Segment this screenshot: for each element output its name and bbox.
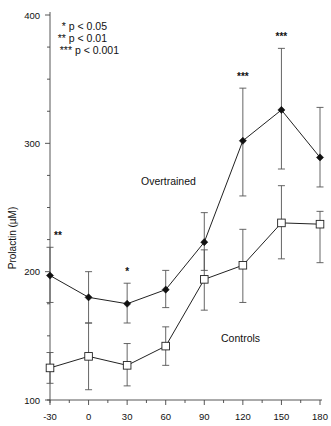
x-tick-label: -30 xyxy=(43,411,57,422)
controls-marker xyxy=(239,261,247,269)
x-tick-label: 150 xyxy=(273,411,289,422)
series-markers xyxy=(46,106,324,371)
controls-label: Controls xyxy=(221,332,260,344)
overtrained-marker xyxy=(46,272,53,279)
x-tick-label: 30 xyxy=(122,411,133,422)
legend-item-p001: ** p < 0.01 xyxy=(58,32,107,44)
significance-label: ** xyxy=(54,230,62,241)
overtrained-marker xyxy=(85,294,92,301)
x-tick-label: 120 xyxy=(235,411,251,422)
controls-marker xyxy=(123,362,131,370)
overtrained-line xyxy=(50,110,320,304)
y-axis-title: Prolactin (µM) xyxy=(7,207,18,269)
legend-item-p005: * p < 0.05 xyxy=(62,20,107,32)
y-tick-label: 200 xyxy=(24,266,40,277)
x-tick-label: 90 xyxy=(199,411,210,422)
overtrained-marker xyxy=(124,300,131,307)
controls-marker xyxy=(200,276,208,284)
x-tick-label: 60 xyxy=(160,411,171,422)
y-tick-label: 400 xyxy=(24,10,40,21)
x-tick-label: 0 xyxy=(86,411,91,422)
controls-marker xyxy=(278,219,286,227)
y-tick-label: 300 xyxy=(24,138,40,149)
controls-marker xyxy=(46,364,54,372)
series-lines xyxy=(50,110,320,368)
significance-markers: ********* xyxy=(54,31,287,277)
significance-label: *** xyxy=(276,31,288,42)
x-tick-label: 180 xyxy=(312,411,328,422)
y-tick-label: 100 xyxy=(24,395,40,406)
axes: 100200300400-300306090120150180 xyxy=(24,10,328,423)
legend: * p < 0.05 ** p < 0.01 *** p < 0.001 xyxy=(58,20,119,56)
legend-item-p0001: *** p < 0.001 xyxy=(60,44,119,56)
prolactin-line-chart: 100200300400-300306090120150180 ********… xyxy=(0,0,331,426)
controls-marker xyxy=(162,342,170,350)
controls-marker xyxy=(316,220,324,228)
overtrained-label: Overtrained xyxy=(141,175,196,187)
significance-label: * xyxy=(125,266,129,277)
controls-marker xyxy=(85,353,93,361)
significance-label: *** xyxy=(237,71,249,82)
